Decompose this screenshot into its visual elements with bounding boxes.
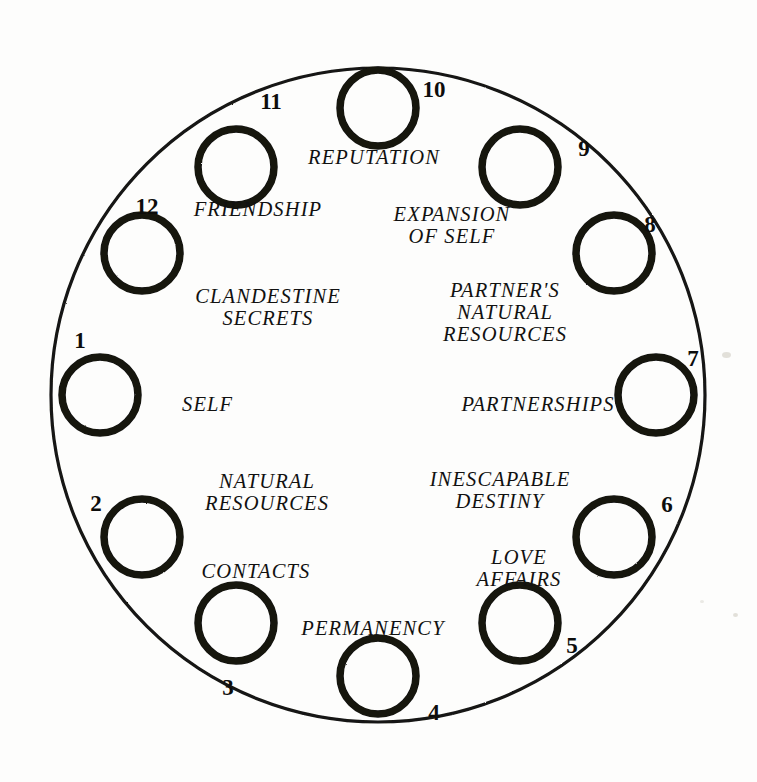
- house-node-circle[interactable]: [340, 638, 416, 714]
- house-label-2: NATURAL RESOURCES: [205, 470, 329, 514]
- house-node-circle[interactable]: [482, 585, 558, 661]
- house-node-circle[interactable]: [576, 215, 652, 291]
- house-number-3: 3: [222, 676, 234, 699]
- house-label-11: FRIENDSHIP: [194, 198, 323, 220]
- house-label-7: PARTNERSHIPS: [461, 393, 614, 415]
- house-label-8: PARTNER'S NATURAL RESOURCES: [443, 279, 567, 345]
- paper-speck: [733, 613, 738, 617]
- house-node-circle[interactable]: [104, 215, 180, 291]
- paper-speck: [722, 352, 731, 358]
- house-label-12: CLANDESTINE SECRETS: [195, 285, 341, 329]
- house-number-11: 11: [260, 90, 282, 113]
- house-number-5: 5: [566, 634, 578, 657]
- house-number-12: 12: [136, 195, 159, 218]
- house-number-1: 1: [74, 329, 86, 352]
- house-number-4: 4: [428, 701, 440, 724]
- house-label-6: INESCAPABLE DESTINY: [430, 468, 571, 512]
- house-label-3: CONTACTS: [202, 560, 311, 582]
- house-number-10: 10: [423, 78, 446, 101]
- houses-wheel-diagram: 123456789101112 SELFNATURAL RESOURCESCON…: [0, 0, 757, 782]
- house-node-circle[interactable]: [482, 129, 558, 205]
- house-number-9: 9: [578, 137, 590, 160]
- house-node-circle[interactable]: [198, 585, 274, 661]
- house-node-circle[interactable]: [576, 499, 652, 575]
- house-node-circle[interactable]: [104, 499, 180, 575]
- wheel-graphic: [0, 0, 757, 782]
- house-label-9: EXPANSION OF SELF: [394, 203, 511, 247]
- paper-speck: [700, 600, 704, 603]
- house-node-circle[interactable]: [618, 357, 694, 433]
- house-number-8: 8: [644, 213, 656, 236]
- house-label-1: SELF: [182, 393, 233, 415]
- house-label-4: PERMANENCY: [301, 617, 444, 639]
- house-number-2: 2: [90, 492, 102, 515]
- house-label-10: REPUTATION: [308, 146, 440, 168]
- house-number-6: 6: [661, 493, 673, 516]
- house-node-circle[interactable]: [62, 357, 138, 433]
- house-node-circle[interactable]: [198, 129, 274, 205]
- house-label-5: LOVE AFFAIRS: [477, 546, 562, 590]
- house-number-7: 7: [687, 347, 699, 370]
- house-node-circle[interactable]: [340, 70, 416, 146]
